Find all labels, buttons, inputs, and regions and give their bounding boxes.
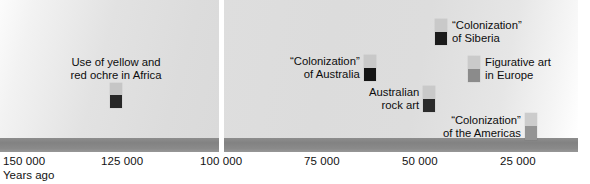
timeline-event-colonization-australia[interactable]: “Colonization”of Australia xyxy=(290,55,376,81)
axis-tick-left-0: 150 000 xyxy=(3,155,45,167)
axis-tick-left-1: 125 000 xyxy=(101,155,143,167)
event-marker-ochre-africa[interactable] xyxy=(110,83,122,108)
timeline-event-ochre-africa[interactable]: Use of yellow andred ochre in Africa xyxy=(71,56,162,108)
marker-segment-bottom xyxy=(423,99,435,112)
event-label-colonization-australia: “Colonization”of Australia xyxy=(290,55,360,80)
axis-tick-left-2: 100 000 xyxy=(200,155,242,167)
marker-segment-bottom xyxy=(110,95,122,108)
event-label-line1: “Colonization” xyxy=(443,114,521,127)
timeline-event-colonization-siberia[interactable]: “Colonization”of Siberia xyxy=(435,19,522,45)
timeline-axis-bar-left xyxy=(0,138,219,152)
marker-segment-top xyxy=(110,83,122,95)
timeline-event-colonization-americas[interactable]: “Colonization”of the Americas xyxy=(443,113,537,140)
axis-tick-right-2: 25 000 xyxy=(500,155,536,167)
event-label-line2: of Siberia xyxy=(452,32,522,45)
marker-segment-bottom xyxy=(468,69,480,82)
event-label-colonization-americas: “Colonization”of the Americas xyxy=(443,114,521,139)
event-marker-colonization-americas[interactable] xyxy=(525,113,537,140)
event-label-line1: Australian xyxy=(369,86,419,99)
timeline-chart: 150 000125 000100 00075 00050 00025 000 … xyxy=(0,0,590,184)
event-label-line1: “Colonization” xyxy=(290,55,360,68)
event-label-line2: of Australia xyxy=(290,68,360,81)
event-label-line2: in Europe xyxy=(485,69,551,82)
timeline-event-figurative-art-europe[interactable]: Figurative artin Europe xyxy=(468,56,551,82)
marker-segment-top xyxy=(423,86,435,99)
marker-segment-top xyxy=(364,55,376,68)
event-label-line1: Use of yellow and xyxy=(71,56,162,69)
event-marker-colonization-siberia[interactable] xyxy=(435,19,447,45)
axis-title: Years ago xyxy=(3,169,54,181)
event-label-line2: red ochre in Africa xyxy=(71,69,162,82)
axis-tick-right-0: 75 000 xyxy=(304,155,340,167)
event-label-colonization-siberia: “Colonization”of Siberia xyxy=(452,19,522,44)
marker-segment-top xyxy=(468,56,480,69)
event-label-line1: “Colonization” xyxy=(452,19,522,32)
marker-segment-top xyxy=(525,113,537,126)
event-label-figurative-art-europe: Figurative artin Europe xyxy=(485,56,551,81)
event-marker-australian-rock-art[interactable] xyxy=(423,86,435,112)
event-marker-colonization-australia[interactable] xyxy=(364,55,376,81)
event-marker-figurative-art-europe[interactable] xyxy=(468,56,480,82)
event-label-line2: rock art xyxy=(369,99,419,112)
timeline-event-australian-rock-art[interactable]: Australianrock art xyxy=(369,86,435,112)
event-label-line1: Figurative art xyxy=(485,56,551,69)
marker-segment-bottom xyxy=(364,68,376,81)
axis-tick-right-1: 50 000 xyxy=(402,155,438,167)
event-label-line2: of the Americas xyxy=(443,127,521,140)
marker-segment-bottom xyxy=(435,32,447,45)
event-label-ochre-africa: Use of yellow andred ochre in Africa xyxy=(71,56,162,81)
event-label-australian-rock-art: Australianrock art xyxy=(369,86,419,111)
marker-segment-top xyxy=(435,19,447,32)
marker-segment-bottom xyxy=(525,126,537,140)
timeline-axis-bar-right xyxy=(224,138,578,152)
